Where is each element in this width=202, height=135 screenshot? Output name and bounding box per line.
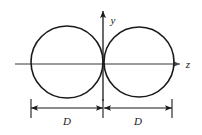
right-circle xyxy=(104,27,174,97)
tangent-circles-diagram: y z D D xyxy=(0,0,202,135)
left-circle xyxy=(31,26,103,98)
z-axis-label: z xyxy=(185,58,191,70)
dimension-label-left: D xyxy=(62,115,71,127)
figure-container: y z D D xyxy=(0,0,202,135)
y-axis-label: y xyxy=(110,14,116,26)
dimension-label-right: D xyxy=(133,115,142,127)
